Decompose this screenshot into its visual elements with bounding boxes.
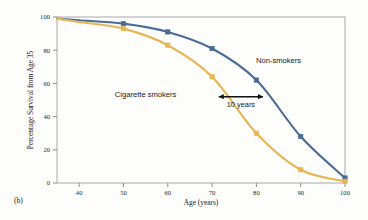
y-tick-label: 60 — [43, 80, 50, 87]
data-point-marker — [298, 134, 302, 138]
data-point-marker — [254, 131, 258, 135]
figure-panel: 020406080100 405060708090100 Percentage … — [0, 0, 368, 220]
data-point-marker — [343, 179, 347, 183]
survival-curve-chart: 020406080100 405060708090100 Percentage … — [0, 0, 368, 220]
annotation-label: 10 years — [227, 100, 256, 109]
data-point-marker — [210, 75, 214, 79]
y-tick-label: 0 — [47, 179, 51, 186]
x-axis-title: Age (years) — [184, 198, 219, 207]
data-point-marker — [121, 26, 125, 30]
y-tick-label: 80 — [43, 47, 50, 54]
data-point-marker — [121, 21, 125, 25]
x-axis-ticks: 405060708090100 — [76, 183, 351, 196]
series-label-1: Non-smokers — [256, 56, 301, 65]
data-point-marker — [166, 30, 170, 34]
x-tick-label: 40 — [76, 189, 83, 196]
y-tick-label: 20 — [43, 146, 50, 153]
plot-background — [57, 17, 345, 183]
y-axis-title: Percentage Survival from Age 35 — [26, 50, 35, 149]
x-tick-label: 70 — [209, 189, 216, 196]
x-tick-label: 80 — [253, 189, 260, 196]
x-tick-label: 90 — [297, 189, 304, 196]
data-point-marker — [210, 46, 214, 50]
x-tick-label: 60 — [164, 189, 171, 196]
data-point-marker — [166, 43, 170, 47]
y-tick-label: 40 — [43, 113, 50, 120]
data-point-marker — [254, 78, 258, 82]
y-tick-label: 100 — [40, 13, 51, 20]
y-axis-ticks: 020406080100 — [40, 13, 57, 186]
x-tick-label: 100 — [340, 189, 351, 196]
x-tick-label: 50 — [120, 189, 127, 196]
data-point-marker — [298, 168, 302, 172]
series-label-2: Cigarette smokers — [115, 90, 177, 99]
panel-label: (b) — [14, 196, 23, 205]
